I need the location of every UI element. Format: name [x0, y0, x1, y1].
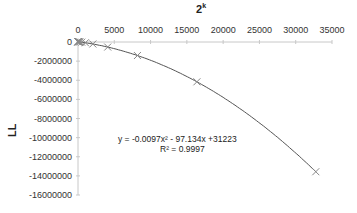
y-tick-label: -2000000	[34, 56, 72, 66]
y-tick-label: 0	[67, 37, 72, 47]
data-point-x-marker	[312, 168, 319, 175]
trendline-equation-box: y = -0.0097x² - 97.134x +31223 R² = 0.99…	[118, 134, 357, 154]
trendline-equation: y = -0.0097x² - 97.134x +31223	[118, 134, 357, 144]
data-point-x-marker	[134, 52, 141, 59]
plot-area: 050001000015000200002500030000350000-200…	[0, 0, 357, 213]
x-tick-label: 20000	[211, 25, 236, 35]
y-tick-label: -16000000	[29, 190, 72, 200]
y-tick-label: -14000000	[29, 171, 72, 181]
x-tick-label: 10000	[138, 25, 163, 35]
y-tick-label: -4000000	[34, 75, 72, 85]
x-tick-label: 35000	[319, 25, 344, 35]
data-point-x-marker	[104, 44, 111, 51]
x-tick-label: 25000	[247, 25, 272, 35]
x-tick-label: 0	[75, 25, 80, 35]
r-squared: R² = 0.9997	[118, 144, 357, 154]
y-tick-label: -12000000	[29, 152, 72, 162]
x-tick-label: 5000	[104, 25, 124, 35]
y-tick-label: -6000000	[34, 94, 72, 104]
chart: 2k LL 0500010000150002000025000300003500…	[0, 0, 357, 213]
y-tick-label: -8000000	[34, 114, 72, 124]
x-tick-label: 15000	[174, 25, 199, 35]
y-tick-label: -10000000	[29, 133, 72, 143]
x-tick-label: 30000	[283, 25, 308, 35]
data-point-x-marker	[193, 78, 200, 85]
